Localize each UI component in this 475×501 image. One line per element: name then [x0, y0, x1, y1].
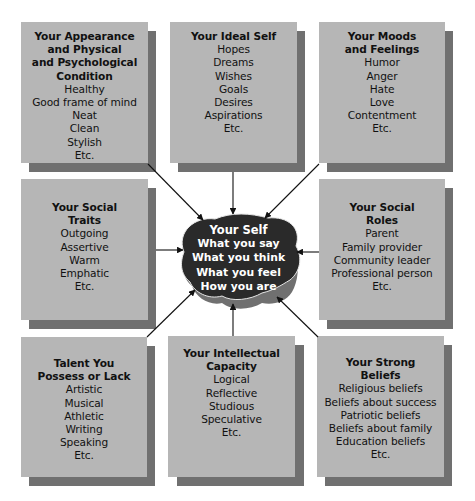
self-concept-diagram: Your Appearance and Physical and Psychol… — [0, 0, 475, 501]
center-label: Your Self What you say What you think Wh… — [180, 223, 297, 294]
arrow-appearance — [148, 164, 203, 220]
center-title: Your Self — [180, 223, 297, 237]
center-item: What you think — [180, 251, 297, 265]
center-item: What you feel — [180, 266, 297, 280]
arrow-beliefs — [277, 297, 318, 337]
arrow-talent — [147, 290, 195, 337]
center-item: What you say — [180, 237, 297, 251]
center-item: How you are — [180, 280, 297, 294]
arrow-moods — [265, 164, 319, 218]
